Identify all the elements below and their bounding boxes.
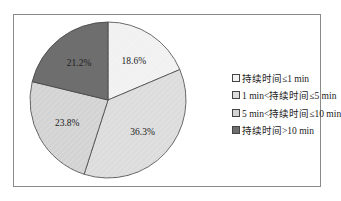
legend-item: 1 min<持续时间≤5 min [232, 87, 341, 105]
legend-item: 持续时间>10 min [232, 122, 341, 140]
legend-label: 5 min<持续时间≤10 min [242, 106, 341, 120]
legend: 持续时间≤1 min 1 min<持续时间≤5 min 5 min<持续时间≤1… [232, 69, 341, 139]
legend-swatch-icon [232, 109, 240, 117]
slice-value-label: 21.2% [67, 58, 92, 68]
legend-label: 1 min<持续时间≤5 min [242, 88, 336, 102]
legend-swatch-icon [232, 74, 240, 82]
legend-item: 持续时间≤1 min [232, 69, 341, 87]
slice-value-label: 23.8% [55, 118, 80, 128]
legend-item: 5 min<持续时间≤10 min [232, 104, 341, 122]
slice-value-label: 18.6% [122, 56, 147, 66]
legend-label: 持续时间>10 min [242, 123, 314, 137]
legend-swatch-icon [232, 91, 240, 99]
slice-value-label: 36.3% [130, 127, 155, 137]
legend-label: 持续时间≤1 min [242, 71, 309, 85]
legend-swatch-icon [232, 126, 240, 134]
